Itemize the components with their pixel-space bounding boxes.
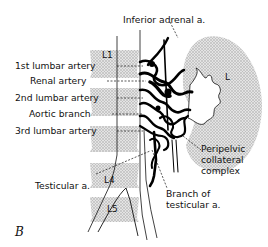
panel-label: B: [14, 225, 24, 239]
label-branch-testicular-2: testicular a.: [166, 199, 221, 210]
label-peripelvic-3: complex: [201, 165, 240, 176]
label-lumbar3: 3rd lumbar artery: [15, 125, 97, 136]
vertebra-l1: [90, 50, 139, 78]
collateral-vessels: [140, 38, 192, 186]
anatomical-diagram: L1 L4 L5 L Inferior adr: [0, 0, 268, 247]
label-peripelvic-1: Peripelvic: [201, 143, 245, 154]
label-lumbar1: 1st lumbar artery: [15, 60, 96, 71]
vertebra-l4-label: L4: [104, 175, 115, 185]
label-renal: Renal artery: [30, 75, 87, 86]
label-testicular: Testicular a.: [34, 180, 90, 191]
vertebral-column: [90, 50, 139, 222]
vertebra-l3: [90, 126, 139, 152]
kidney-label: L: [225, 72, 230, 82]
label-lumbar2: 2nd lumbar artery: [15, 92, 99, 103]
label-inferior-adrenal: Inferior adrenal a.: [123, 14, 205, 25]
label-aortic-branch: Aortic branch: [29, 108, 91, 119]
vertebra-l1-label: L1: [102, 50, 113, 60]
label-peripelvic-2: collateral: [201, 154, 244, 165]
label-branch-testicular-1: Branch of: [166, 188, 211, 199]
